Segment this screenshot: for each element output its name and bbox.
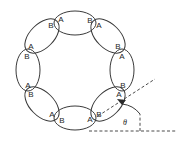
- ring-unit-top: A B: [54, 11, 96, 35]
- site-label-top-a: A: [58, 15, 64, 24]
- site-label-right-a: A: [119, 52, 125, 61]
- angle-arc: [122, 104, 140, 114]
- site-label-upper-right-a: A: [96, 21, 102, 30]
- ring-dimer-figure: A B A B A B A B: [0, 0, 179, 151]
- tilt-axis-guide-line: [98, 79, 155, 116]
- site-label-lower-left-b: B: [28, 90, 33, 99]
- angle-theta-label: θ: [123, 118, 127, 127]
- site-label-bottom-b: B: [59, 116, 64, 125]
- site-label-lower-right-a: A: [116, 90, 122, 99]
- site-label-upper-left-b: B: [48, 21, 53, 30]
- angle-annotation: θ: [89, 79, 176, 131]
- site-label-left-b: B: [24, 52, 29, 61]
- site-label-lower-left-a: A: [49, 110, 55, 119]
- site-label-left-a: A: [25, 81, 31, 90]
- ring-unit-bottom: B A: [54, 106, 96, 130]
- site-label-upper-left-a: A: [28, 42, 34, 51]
- ring-unit-left: B A: [16, 49, 40, 91]
- ring-units: A B A B A B A B: [16, 11, 134, 130]
- figure-canvas: A B A B A B A B: [0, 0, 179, 151]
- ring-unit-right: A B: [110, 49, 134, 91]
- site-label-bottom-a: A: [87, 115, 93, 124]
- site-label-lower-right-b: B: [96, 110, 101, 119]
